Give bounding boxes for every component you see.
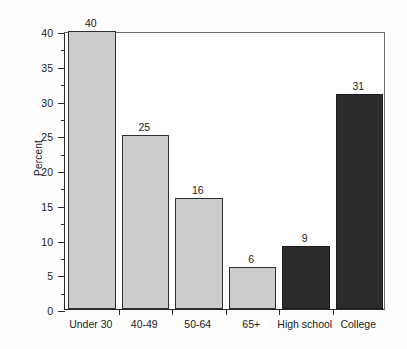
y-tick-label: 30 [13,97,53,109]
bar [122,135,170,309]
y-tick-minor [61,259,65,260]
y-tick-label: 15 [13,201,53,213]
bar [282,246,330,309]
y-tick-major [58,33,65,34]
plot-area: 0510152025303540 [64,32,385,310]
bar-value-label: 40 [67,17,115,29]
x-tick [333,309,334,315]
bar-value-label: 31 [335,80,383,92]
y-tick-label: 0 [13,305,53,317]
y-tick-label: 10 [13,236,53,248]
y-tick-minor [61,189,65,190]
y-tick-label: 20 [13,166,53,178]
y-tick-major [58,103,65,104]
y-tick-major [58,137,65,138]
y-tick-label: 25 [13,131,53,143]
y-tick-major [58,242,65,243]
y-tick-major [58,276,65,277]
x-axis-label: College [320,318,398,330]
y-tick-label: 5 [13,270,53,282]
x-tick [226,309,227,315]
x-tick [279,309,280,315]
y-tick-minor [61,155,65,156]
bar [336,94,384,309]
bar-value-label: 6 [228,253,276,265]
bar-chart: Percent 0510152025303540 4025166931 Unde… [0,0,407,349]
bar-value-label: 16 [174,184,222,196]
x-tick [172,309,173,315]
y-tick-label: 35 [13,62,53,74]
y-tick-label: 40 [13,27,53,39]
y-tick-minor [61,85,65,86]
y-tick-major [58,311,65,312]
bar [229,267,277,309]
y-tick-major [58,207,65,208]
y-tick-major [58,68,65,69]
bar [68,31,116,309]
y-tick-minor [61,50,65,51]
bar-value-label: 25 [121,121,169,133]
y-tick-minor [61,120,65,121]
y-tick-minor [61,224,65,225]
bar [175,198,223,309]
y-tick-major [58,172,65,173]
bar-value-label: 9 [281,232,329,244]
y-tick-minor [61,294,65,295]
x-tick [119,309,120,315]
